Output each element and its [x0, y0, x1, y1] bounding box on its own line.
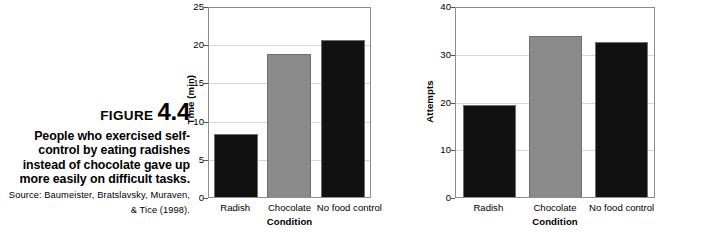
y-tick-label: 10 [178, 117, 204, 127]
y-tick-label: 10 [418, 145, 451, 155]
bar-radish [214, 134, 258, 197]
y-tick-label: 25 [178, 2, 204, 12]
plot-wrapper-left: Time (min) 0510152025 RadishChocolateNo … [178, 0, 408, 240]
bar-no-food-control [595, 42, 648, 197]
x-tick-label: No food control [317, 203, 371, 213]
x-tick-label: Chocolate [262, 203, 316, 213]
bar-group-left [209, 8, 370, 197]
figure-caption-text: People who exercised self-control by eat… [0, 129, 190, 217]
y-tick-label: 40 [418, 2, 451, 12]
figure-heading: FIGURE4.4 [0, 100, 190, 124]
plot-area-right [455, 7, 655, 198]
chart-time-min: Time (min) 0510152025 RadishChocolateNo … [178, 0, 408, 240]
figure-label: FIGURE [100, 108, 153, 123]
y-tick-label: 20 [418, 98, 451, 108]
y-tick-mark [451, 198, 455, 199]
figure-container: FIGURE4.4 People who exercised self-cont… [0, 0, 707, 240]
y-tick-label: 15 [178, 78, 204, 88]
chart-attempts: Attempts 010203040 RadishChocolateNo foo… [418, 0, 688, 240]
y-tick-label: 5 [178, 155, 204, 165]
y-tick-mark [204, 198, 208, 199]
x-axis-title-right: Condition [455, 216, 655, 227]
y-tick-label: 0 [418, 193, 451, 203]
x-tick-labels-right: RadishChocolateNo food control [455, 203, 655, 213]
caption-source: Source: Baumeister, Bratslavsky, Muraven… [9, 190, 190, 215]
x-axis-title-left: Condition [208, 216, 371, 227]
x-tick-label: No food control [589, 203, 655, 213]
bar-chocolate [267, 54, 311, 197]
x-tick-labels-left: RadishChocolateNo food control [208, 203, 371, 213]
x-tick-label: Chocolate [522, 203, 588, 213]
figure-caption-block: FIGURE4.4 People who exercised self-cont… [0, 100, 190, 217]
y-tick-label: 0 [178, 193, 204, 203]
y-tick-label: 20 [178, 40, 204, 50]
bar-group-right [456, 8, 654, 197]
x-tick-label: Radish [208, 203, 262, 213]
y-tick-label: 30 [418, 50, 451, 60]
plot-area-left [208, 7, 371, 198]
bar-radish [463, 105, 516, 197]
caption-sentence: People who exercised self-control by eat… [20, 129, 190, 186]
bar-no-food-control [321, 40, 365, 197]
bar-chocolate [529, 36, 582, 197]
x-tick-label: Radish [455, 203, 521, 213]
plot-wrapper-right: Attempts 010203040 RadishChocolateNo foo… [418, 0, 688, 240]
